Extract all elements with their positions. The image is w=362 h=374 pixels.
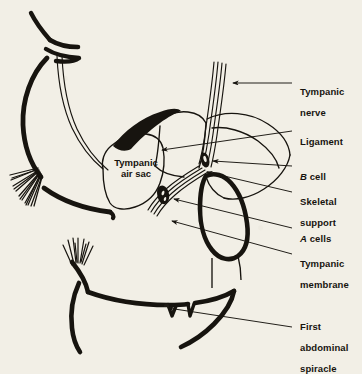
label-line-1: Tympanic bbox=[300, 86, 344, 97]
leader-lines bbox=[162, 83, 292, 327]
label-b-cell: B cell bbox=[300, 161, 326, 182]
label-italic-prefix: A bbox=[300, 233, 307, 244]
nerve-tract-upper bbox=[57, 56, 108, 170]
hair-brush-lower bbox=[63, 238, 93, 265]
label-skeletal-support: Skeletal support bbox=[300, 186, 337, 228]
label-line-2: membrane bbox=[300, 279, 349, 290]
label-tympanic-nerve: Tympanic nerve bbox=[300, 76, 344, 118]
lower-body-segment bbox=[71, 262, 234, 352]
leader-first-abdominal-spiracle bbox=[168, 308, 292, 327]
label-italic-prefix: B bbox=[300, 171, 307, 182]
label-line-1: Tympanic bbox=[300, 258, 344, 269]
label-line-1: cells bbox=[310, 233, 332, 244]
label-a-cells: A cells bbox=[300, 223, 331, 244]
label-line-2: nerve bbox=[300, 107, 326, 118]
label-ligament: Ligament bbox=[300, 126, 343, 147]
leader-ligament bbox=[162, 131, 292, 150]
leader-b-cell bbox=[213, 161, 292, 166]
leader-a-cells bbox=[174, 199, 292, 228]
label-line-1: Skeletal bbox=[300, 196, 337, 207]
label-line-2: abdominal bbox=[300, 342, 348, 353]
label-tympanic-membrane: Tympanic membrane bbox=[300, 248, 349, 290]
leader-tympanic-membrane bbox=[172, 221, 292, 254]
label-line-1: First bbox=[300, 321, 321, 332]
label-first-abdominal-spiracle: First abdominal spiracle bbox=[300, 311, 348, 374]
label-line-1: Ligament bbox=[300, 136, 343, 147]
ligament-wedge bbox=[113, 109, 181, 151]
tympanic-membrane-ring bbox=[200, 174, 248, 259]
label-tympanic-air-sac: Tympanic air sac bbox=[98, 158, 174, 179]
label-line-1: cell bbox=[310, 171, 326, 182]
label-line-3: spiracle bbox=[300, 363, 337, 374]
upper-body-segment bbox=[23, 13, 113, 218]
